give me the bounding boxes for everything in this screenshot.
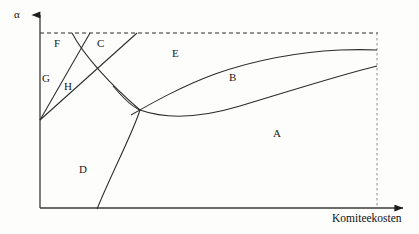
phase-diagram-figure: α Komiteekosten A B C D E F G H	[0, 0, 419, 234]
boundary-curve-band-upper	[131, 50, 377, 115]
diagram-canvas	[0, 0, 419, 234]
region-label-g: G	[42, 73, 50, 84]
boundary-curve-descending	[72, 33, 140, 209]
region-label-e: E	[172, 48, 179, 59]
region-label-c: C	[97, 38, 104, 49]
region-label-f: F	[54, 38, 60, 49]
region-label-a: A	[273, 128, 281, 139]
region-label-h: H	[64, 81, 72, 92]
region-label-b: B	[229, 72, 236, 83]
x-axis-label: Komiteekosten	[332, 213, 402, 225]
y-axis-label: α	[14, 9, 20, 20]
region-label-d: D	[79, 164, 87, 175]
boundary-curve-band-lower	[113, 66, 377, 116]
